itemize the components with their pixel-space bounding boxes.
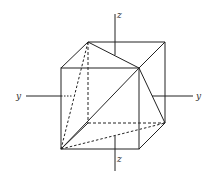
- triangle-edge-top: [88, 42, 139, 68]
- y-left-label: y: [15, 91, 22, 101]
- cube-edge-bottom-right: [139, 123, 165, 149]
- cube-edge-top-right: [139, 42, 165, 68]
- cube-diagram: z z y y: [0, 0, 213, 184]
- triangle-edge-bottom-hidden: [61, 123, 165, 149]
- triangle-edge-diagonal: [61, 68, 139, 149]
- z-bottom-label: z: [116, 154, 122, 164]
- z-top-label: z: [116, 10, 122, 20]
- y-right-label: y: [195, 91, 202, 101]
- cube-edge-top-left: [61, 42, 88, 68]
